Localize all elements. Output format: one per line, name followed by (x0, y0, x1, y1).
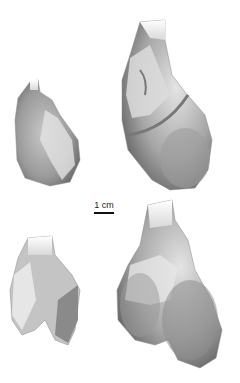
specimen-top-left-shape (15, 80, 80, 186)
scale-bar: 1 cm (89, 200, 119, 214)
specimen-top-left (0, 0, 240, 383)
scale-bar-line (94, 212, 114, 214)
scale-bar-label: 1 cm (89, 200, 119, 210)
